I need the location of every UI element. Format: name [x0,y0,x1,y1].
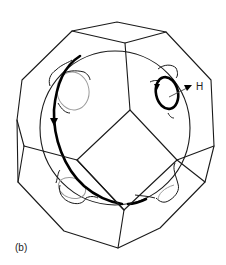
brillouin-zone [17,22,214,248]
panel-label: (b) [15,242,27,253]
neck-lower-right [135,163,179,202]
fermi-surface-diagram: H (b) [0,0,226,265]
zone-outline [17,22,214,248]
field-arrow-icon [184,85,192,91]
front-square-face [77,110,177,210]
neck-upper-right [150,65,178,118]
field-label: H [196,81,203,92]
belly-orbit-arrow-icon [50,118,58,126]
